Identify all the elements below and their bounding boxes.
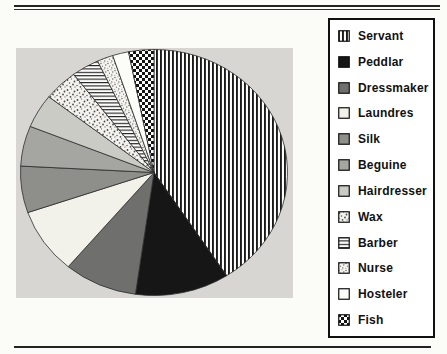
legend-label: Silk [358, 133, 380, 145]
pie-chart [16, 48, 293, 298]
legend-item-beguine: Beguine [338, 154, 431, 176]
legend-label: Hosteler [358, 288, 408, 300]
legend-box: ServantPeddlarDressmakerLaundresSilkBegu… [328, 18, 435, 338]
legend-swatch-hosteler-icon [338, 288, 350, 300]
legend-item-hairdresser: Hairdresser [338, 180, 431, 202]
top-rule-thin [14, 9, 440, 10]
legend-item-peddlar: Peddlar [338, 51, 431, 73]
legend-item-hosteler: Hosteler [338, 283, 431, 305]
legend-label: Peddlar [358, 56, 403, 68]
legend-item-laundres: Laundres [338, 102, 431, 124]
legend-item-silk: Silk [338, 128, 431, 150]
legend-item-barber: Barber [338, 232, 431, 254]
legend-swatch-servant-icon [338, 30, 350, 42]
legend-label: Dressmaker [358, 82, 429, 94]
legend-label: Laundres [358, 107, 414, 119]
top-rule-thick [14, 5, 440, 7]
legend-swatch-hairdresser-icon [338, 185, 350, 197]
pie-plot-area [16, 48, 293, 298]
legend-label: Barber [358, 237, 398, 249]
legend-label: Wax [358, 211, 383, 223]
legend-swatch-wax-icon [338, 211, 350, 223]
legend-label: Hairdresser [358, 185, 427, 197]
legend-item-fish: Fish [338, 309, 431, 331]
legend-item-servant: Servant [338, 25, 431, 47]
legend-label: Beguine [358, 159, 407, 171]
legend-swatch-peddlar-icon [338, 56, 350, 68]
bottom-rule [14, 346, 431, 348]
legend-label: Fish [358, 314, 383, 326]
legend-swatch-nurse-icon [338, 262, 350, 274]
legend-swatch-fish-icon [338, 314, 350, 326]
legend-label: Nurse [358, 262, 393, 274]
legend-swatch-dressmaker-icon [338, 82, 350, 94]
legend-label: Servant [358, 30, 403, 42]
legend-swatch-laundres-icon [338, 107, 350, 119]
legend-item-nurse: Nurse [338, 257, 431, 279]
legend-swatch-beguine-icon [338, 159, 350, 171]
legend-swatch-silk-icon [338, 133, 350, 145]
legend-swatch-barber-icon [338, 237, 350, 249]
legend-item-dressmaker: Dressmaker [338, 77, 431, 99]
legend-item-wax: Wax [338, 206, 431, 228]
